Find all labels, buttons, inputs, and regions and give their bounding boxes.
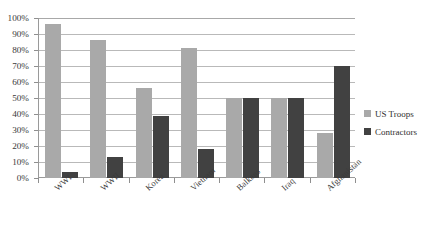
bar-iraq-contractors bbox=[288, 98, 304, 178]
bar-balkans-us-troops bbox=[226, 98, 242, 178]
bar-iraq-us-troops bbox=[271, 98, 287, 178]
bar-afghanistan-contractors bbox=[334, 66, 350, 178]
x-tick-mark bbox=[83, 178, 84, 183]
y-tick-label-70: 70% bbox=[12, 61, 29, 71]
y-tick-label-40: 40% bbox=[12, 109, 29, 119]
bar-group bbox=[174, 18, 219, 178]
y-tick-label-30: 30% bbox=[12, 125, 29, 135]
y-tick-label-50: 50% bbox=[12, 93, 29, 103]
x-tick-mark bbox=[38, 178, 39, 183]
x-tick-mark bbox=[129, 178, 130, 183]
x-tick-mark bbox=[174, 178, 175, 183]
y-tick-label-90: 90% bbox=[12, 29, 29, 39]
legend-swatch-icon bbox=[364, 128, 371, 135]
y-tick-label-100: 100% bbox=[8, 13, 29, 23]
legend-label: US Troops bbox=[375, 109, 414, 119]
x-tick-mark bbox=[264, 178, 265, 183]
bar-vietnam-us-troops bbox=[181, 48, 197, 178]
bar-wwii-us-troops bbox=[90, 40, 106, 178]
y-tick-label-60: 60% bbox=[12, 77, 29, 87]
bars-layer bbox=[38, 18, 355, 178]
x-tick-mark bbox=[219, 178, 220, 183]
bar-group bbox=[264, 18, 309, 178]
y-tick-label-0: 0% bbox=[17, 173, 29, 183]
bar-group bbox=[310, 18, 355, 178]
legend-label: Contractors bbox=[375, 127, 417, 137]
bar-korea-contractors bbox=[153, 116, 169, 178]
bar-korea-us-troops bbox=[136, 88, 152, 178]
legend-swatch-icon bbox=[364, 110, 371, 117]
x-tick-mark bbox=[310, 178, 311, 183]
y-tick-label-80: 80% bbox=[12, 45, 29, 55]
legend-item-us-troops[interactable]: US Troops bbox=[364, 108, 430, 119]
chart-legend: US TroopsContractors bbox=[364, 108, 430, 144]
bar-group bbox=[83, 18, 128, 178]
bar-wwi-us-troops bbox=[45, 24, 61, 178]
bar-group bbox=[219, 18, 264, 178]
bar-balkans-contractors bbox=[243, 98, 259, 178]
bar-chart: 100%90%80%70%60%50%40%30%20%10%0% US Tro… bbox=[0, 0, 433, 236]
y-axis: 100%90%80%70%60%50%40%30%20%10%0% bbox=[0, 0, 34, 236]
y-tick-label-10: 10% bbox=[12, 157, 29, 167]
y-tick-label-20: 20% bbox=[12, 141, 29, 151]
bar-group bbox=[38, 18, 83, 178]
bar-afghanistan-us-troops bbox=[317, 133, 333, 178]
bar-group bbox=[129, 18, 174, 178]
x-tick-mark bbox=[355, 178, 356, 183]
legend-item-contractors[interactable]: Contractors bbox=[364, 126, 430, 137]
